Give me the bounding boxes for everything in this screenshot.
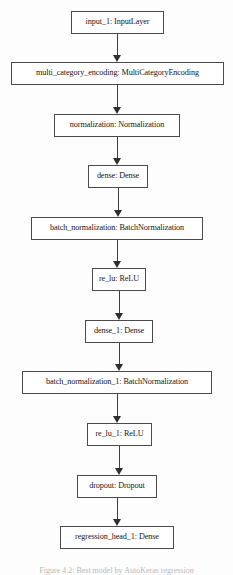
arrowhead-icon <box>114 210 122 217</box>
edge-arrow <box>115 446 124 475</box>
edge-arrow <box>113 498 122 526</box>
edge-arrow <box>113 85 122 114</box>
edge-line <box>117 34 118 56</box>
layer-node-label: re_lu: ReLU <box>99 275 139 283</box>
arrowhead-icon <box>113 158 121 165</box>
layer-node-multi-category-encoding: multi_category_encoding: MultiCategoryEn… <box>11 62 224 85</box>
edge-line <box>119 291 120 314</box>
arrowhead-icon <box>113 107 121 114</box>
layer-node-re-lu-1: re_lu_1: ReLU <box>87 423 152 446</box>
edge-line <box>117 394 118 417</box>
layer-node-batch-normalization-1: batch_normalization_1: BatchNormalizatio… <box>22 371 212 394</box>
layer-node-label: re_lu_1: ReLU <box>95 430 143 438</box>
layer-node-label: dense: Dense <box>97 172 139 180</box>
edge-line <box>117 240 118 262</box>
layer-node-dense-1: dense_1: Dense <box>85 320 153 343</box>
layer-node-label: batch_normalization: BatchNormalization <box>50 224 184 232</box>
layer-node-label: dropout: Dropout <box>89 482 144 490</box>
layer-node-label: regression_head_1: Dense <box>75 533 159 541</box>
layer-node-normalization: normalization: Normalization <box>54 114 180 137</box>
layer-node-dropout: dropout: Dropout <box>77 475 157 498</box>
layer-node-label: dense_1: Dense <box>94 327 144 335</box>
edge-line <box>119 446 120 469</box>
edge-arrow <box>114 188 123 217</box>
layer-node-re-lu: re_lu: ReLU <box>92 268 146 291</box>
layer-node-dense: dense: Dense <box>88 165 148 188</box>
layer-node-label: batch_normalization_1: BatchNormalizatio… <box>46 378 188 386</box>
arrowhead-icon <box>115 364 123 371</box>
layer-node-input-1: input_1: InputLayer <box>71 11 164 34</box>
layer-node-label: normalization: Normalization <box>70 121 164 129</box>
edge-line <box>119 343 120 365</box>
edge-arrow <box>113 137 122 165</box>
edge-arrow <box>115 291 124 320</box>
layer-node-batch-normalization: batch_normalization: BatchNormalization <box>31 217 203 240</box>
layer-node-regression-head-1: regression_head_1: Dense <box>60 526 174 549</box>
edge-line <box>117 498 118 520</box>
arrowhead-icon <box>115 313 123 320</box>
edge-arrow <box>113 34 122 62</box>
arrowhead-icon <box>113 519 121 526</box>
edge-arrow <box>115 343 124 371</box>
edge-arrow <box>113 394 122 423</box>
arrowhead-icon <box>113 261 121 268</box>
edge-line <box>118 188 119 211</box>
figure-caption: Figure 4.2: Best model by AutoKeras regr… <box>0 566 233 575</box>
layer-node-label: multi_category_encoding: MultiCategoryEn… <box>36 69 199 77</box>
arrowhead-icon <box>113 416 121 423</box>
model-architecture-diagram: input_1: InputLayermulti_category_encodi… <box>0 0 233 575</box>
edge-arrow <box>113 240 122 268</box>
edge-line <box>117 85 118 108</box>
arrowhead-icon <box>115 468 123 475</box>
arrowhead-icon <box>113 55 121 62</box>
edge-line <box>117 137 118 159</box>
layer-node-label: input_1: InputLayer <box>86 18 150 26</box>
